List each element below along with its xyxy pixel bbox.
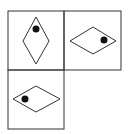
horizontal-rhombus-icon — [13, 86, 60, 112]
horizontal-rhombus-icon — [70, 27, 116, 54]
cell-bottom-left — [8, 70, 64, 129]
cell-top-right — [64, 11, 121, 70]
dot-icon — [22, 96, 29, 103]
cell-top-left — [8, 11, 64, 70]
dot-icon — [101, 37, 108, 44]
vertical-rhombus-icon — [23, 17, 49, 64]
puzzle-grid — [0, 0, 130, 134]
dot-icon — [33, 26, 40, 33]
